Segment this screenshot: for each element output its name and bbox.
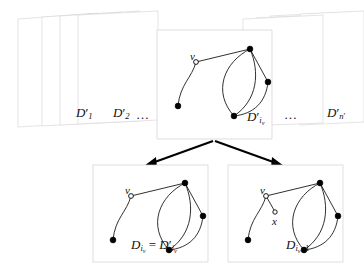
card-label-right-result: Div+1 [286, 238, 310, 251]
left-result-sub2: iv [172, 243, 177, 253]
card-label-iv-letter: D [247, 109, 256, 124]
card-label-1-letter: D [76, 105, 85, 120]
graph-node-right [200, 213, 206, 219]
left-result-D2: D [159, 237, 168, 252]
card-label-n-sub-prime: ′ [344, 111, 346, 121]
card-label-iv-sub-v: v [262, 120, 265, 126]
card-label-iv: D′iv [247, 110, 264, 123]
card-label-2-sub: 2 [125, 111, 129, 121]
card-label-2: D′2 [113, 106, 130, 119]
graph-node-top [182, 180, 188, 186]
left-result-eq: = [146, 237, 160, 252]
graph-node-top [317, 180, 323, 186]
figure-root: D′1 D′2 … D′iv … D′n′ v Div = D′iv v Div… [0, 0, 364, 275]
figure-canvas [0, 0, 364, 275]
card-label-iv-sub: iv [259, 115, 264, 125]
vertex-label-v-top: v [190, 50, 195, 62]
graph-node-p1 [245, 237, 251, 243]
arrow-right-shaft [215, 141, 276, 163]
graph-node-right [335, 213, 341, 219]
ellipsis-right: … [284, 107, 299, 123]
graph-node-x [273, 210, 277, 214]
right-result-plus1: +1 [301, 243, 310, 253]
left-result-D1: D [131, 237, 140, 252]
card-label-n: D′n′ [327, 106, 345, 119]
top-card-stack [18, 11, 364, 139]
ellipsis-left: … [136, 107, 151, 123]
card-label-1: D′1 [76, 106, 93, 119]
arrow-left-shaft [152, 141, 213, 163]
card-label-n-sub: n′ [339, 111, 345, 121]
graph-node-p1 [175, 103, 181, 109]
split-arrows-group [144, 141, 284, 168]
vertex-label-v-right: v [260, 184, 265, 196]
graph-node-right [265, 79, 271, 85]
vertex-label-x-right: x [272, 215, 277, 227]
vertex-label-v-left: v [125, 184, 130, 196]
card-label-2-letter: D [113, 105, 122, 120]
right-result-sub: iv+1 [295, 243, 309, 253]
graph-node-p1 [110, 237, 116, 243]
card-label-n-letter: D [327, 105, 336, 120]
graph-node-top [247, 46, 253, 52]
graph-node-bottom [231, 113, 237, 119]
right-result-D: D [286, 237, 295, 252]
left-result-sub2-v: v [174, 248, 177, 254]
card-label-left-result: Div = D′iv [131, 238, 177, 251]
card-label-1-sub: 1 [88, 111, 92, 121]
